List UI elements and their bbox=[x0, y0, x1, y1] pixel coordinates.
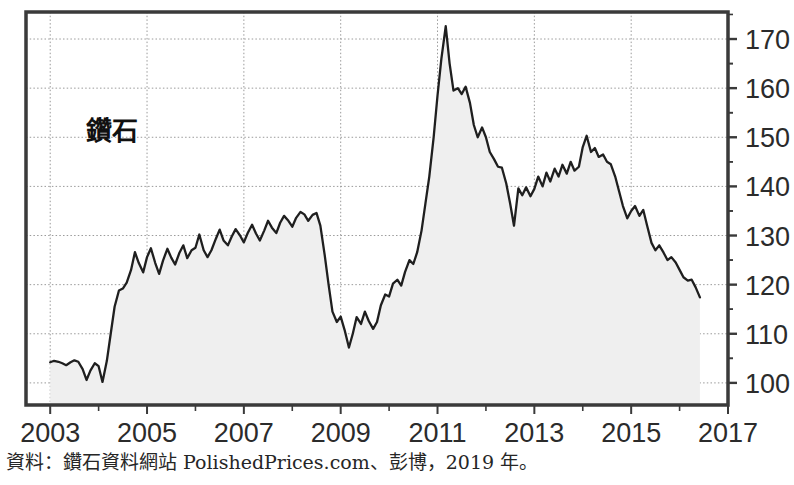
y-axis-tick-labels: 100110120130140150160170 bbox=[745, 25, 790, 399]
x-tick-label: 2007 bbox=[214, 418, 274, 448]
y-tick-label: 130 bbox=[745, 222, 790, 252]
y-tick-label: 120 bbox=[745, 271, 790, 301]
series-annotation-label: 鑽石 bbox=[86, 116, 138, 146]
y-tick-label: 170 bbox=[745, 25, 790, 55]
x-tick-label: 2015 bbox=[601, 418, 661, 448]
y-tick-label: 110 bbox=[745, 320, 788, 350]
x-tick-label: 2011 bbox=[408, 418, 466, 448]
x-tick-label: 2003 bbox=[20, 418, 80, 448]
y-tick-label: 140 bbox=[745, 172, 790, 202]
diamond-price-chart: 20032005200720092011201320152017 1001101… bbox=[0, 0, 794, 448]
x-tick-label: 2009 bbox=[311, 418, 371, 448]
x-tick-label: 2013 bbox=[504, 418, 564, 448]
y-tick-label: 100 bbox=[745, 369, 790, 399]
x-tick-label: 2005 bbox=[117, 418, 177, 448]
source-note: 資料：鑽石資料網站 PolishedPrices.com、彭博，2019 年。 bbox=[6, 452, 538, 473]
diamond-price-figure: 20032005200720092011201320152017 1001101… bbox=[0, 0, 794, 485]
y-tick-label: 150 bbox=[745, 123, 790, 153]
y-tick-label: 160 bbox=[745, 74, 790, 104]
x-tick-label: 2017 bbox=[698, 418, 758, 448]
x-axis-tick-labels: 20032005200720092011201320152017 bbox=[20, 418, 758, 448]
